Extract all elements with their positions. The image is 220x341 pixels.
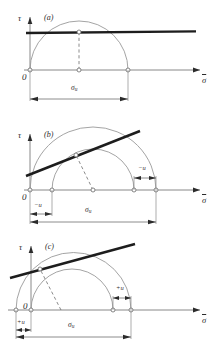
tangent-point-c — [38, 267, 42, 271]
panel-c-canvas — [0, 228, 220, 341]
failure-envelope-a — [26, 31, 196, 33]
sigma-axis-c — [8, 308, 200, 313]
dimension-label-sigma-u-b: σu — [85, 206, 91, 215]
sigma-axis-a — [24, 68, 200, 73]
panel-c: τ (c) 0 +u σu +u σ — [0, 228, 220, 341]
tau-axis-label-b: τ — [18, 131, 21, 140]
tangent-point-b — [74, 153, 78, 157]
dimension-sigma-u-a — [30, 70, 128, 101]
panel-letter-a: (a) — [44, 14, 53, 22]
center-point-a — [77, 68, 81, 72]
dimension-label-sigma-u-c: σu — [68, 321, 74, 330]
panel-letter-b: (b) — [44, 131, 53, 139]
panel-b-canvas — [0, 114, 220, 228]
panel-a: τ (a) 0 σu σ — [0, 0, 220, 114]
origin-label-b: 0 — [22, 193, 27, 202]
tangent-point-a — [77, 30, 81, 34]
tau-axis-a — [28, 17, 33, 70]
dimension-label-plus-u-left-c: +u — [17, 319, 25, 326]
dimension-label-sigma-u-a: σu — [71, 84, 77, 93]
mohr-circle-figure: τ (a) 0 σu σ — [0, 0, 220, 341]
sigma-axis-label-c: σ — [202, 316, 206, 325]
center-point-b — [91, 188, 95, 192]
mohr-circle-effective-b — [52, 149, 134, 190]
dimension-label-plus-u-right-c: +u — [116, 285, 124, 292]
origin-label-c: 0 — [23, 302, 28, 311]
panel-a-canvas — [0, 0, 220, 114]
radius-line-b — [76, 155, 93, 190]
tau-axis-c — [29, 246, 34, 310]
tau-axis-label-a: τ — [18, 14, 21, 23]
dimension-label-minus-u-right-b: −u — [138, 165, 146, 172]
dimension-minus-u-right-b — [134, 176, 156, 190]
sigma-axis-label-a: σ — [202, 76, 206, 85]
sigma-subscript-a: u — [75, 86, 78, 92]
origin-label-a: 0 — [22, 73, 27, 82]
panel-b: τ (b) 0 −u σu −u σ — [0, 114, 220, 228]
sigma-subscript-c: u — [72, 323, 75, 329]
panel-letter-c: (c) — [45, 243, 54, 251]
dimension-sigma-u-b — [30, 190, 156, 224]
mohr-circle-effective-c — [31, 269, 113, 310]
failure-envelope-c — [10, 244, 135, 278]
tau-axis-b — [28, 134, 33, 190]
sigma-axis-label-b: σ — [202, 196, 206, 205]
sigma-subscript-b: u — [89, 208, 92, 214]
tau-axis-label-c: τ — [19, 243, 22, 252]
dimension-label-minus-u-left-b: −u — [34, 202, 42, 209]
dimension-plus-u-right-c — [113, 296, 131, 310]
